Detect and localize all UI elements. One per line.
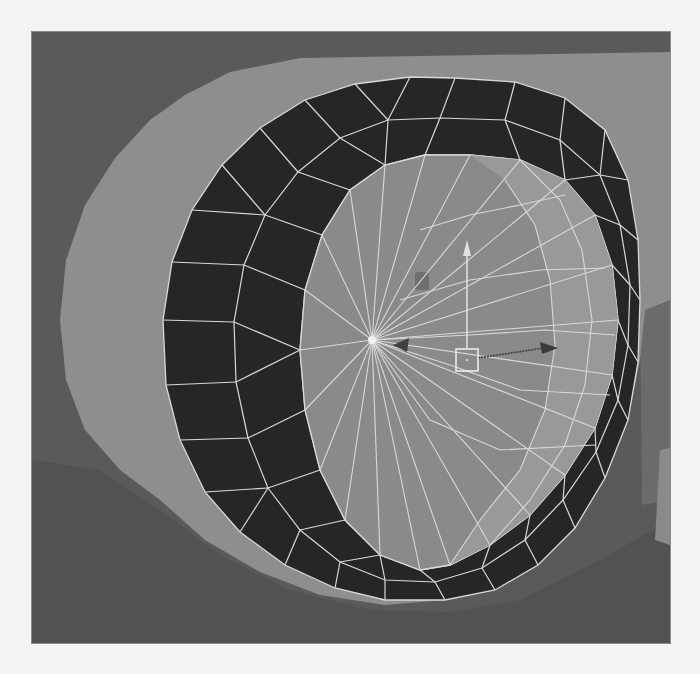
pivot-vertex (368, 336, 376, 344)
vertex-marker (415, 272, 429, 290)
scene-canvas[interactable] (32, 32, 670, 643)
gizmo-center-dot (466, 359, 468, 361)
3d-viewport[interactable]: 3D viewport (32, 32, 670, 643)
